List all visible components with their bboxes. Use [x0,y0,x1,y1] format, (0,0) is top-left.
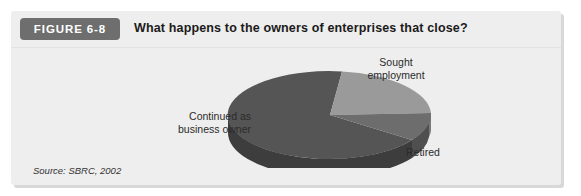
figure-number-badge: FIGURE 6-8 [20,18,120,40]
figure-title: What happens to the owners of enterprise… [134,21,468,35]
figure-container: FIGURE 6-8 What happens to the owners of… [0,0,581,196]
pie-label-sought-employment: Sought employment [341,56,451,81]
source-note: Source: SBRC, 2002 [33,165,121,176]
pie-label-retired: Retired [406,146,486,159]
pie-label-continued-as-business-owner: Continued as business owner [121,110,251,135]
figure-header: FIGURE 6-8 What happens to the owners of… [11,11,561,49]
figure-panel: FIGURE 6-8 What happens to the owners of… [11,11,561,185]
